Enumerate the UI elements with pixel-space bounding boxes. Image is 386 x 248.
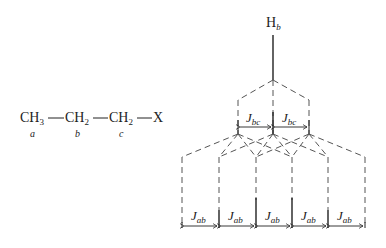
jbc-label-1: Jbc <box>246 110 260 127</box>
group-c: CH2 <box>109 110 133 127</box>
group-b: CH2 <box>65 110 89 127</box>
label-b: b <box>75 128 80 139</box>
group-x: X <box>153 110 163 125</box>
label-c: c <box>119 128 124 139</box>
group-a: CH3 <box>20 110 44 127</box>
splitting-tree-diagram: CH3 CH2 CH2 X a b c Hb Jbc Jbc <box>0 0 386 248</box>
jbc-label-2: Jbc <box>282 110 296 127</box>
jab-label-4: Jab <box>301 208 316 225</box>
molecule-formula: CH3 CH2 CH2 X a b c <box>20 110 163 139</box>
jab-label-2: Jab <box>228 208 243 225</box>
jab-label-3: Jab <box>265 208 280 225</box>
proton-label: Hb <box>266 15 281 32</box>
label-a: a <box>30 128 35 139</box>
jab-label-5: Jab <box>337 208 352 225</box>
jab-label-1: Jab <box>191 208 206 225</box>
